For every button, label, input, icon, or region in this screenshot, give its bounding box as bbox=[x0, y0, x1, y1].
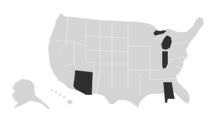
contiguous-us bbox=[48, 13, 204, 108]
state-arizona[interactable] bbox=[73, 70, 93, 95]
state-hawaii bbox=[51, 89, 73, 104]
state-alaska bbox=[12, 79, 50, 109]
us-map bbox=[0, 0, 218, 124]
us-map-svg bbox=[0, 0, 218, 124]
